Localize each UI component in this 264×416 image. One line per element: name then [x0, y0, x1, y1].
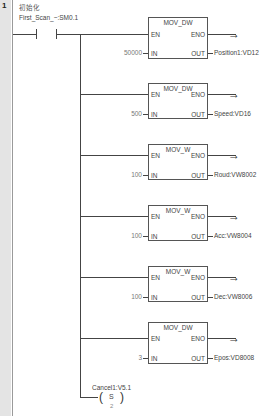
- in-wire: [143, 297, 148, 298]
- block-box[interactable]: MOV_DW EN ENO IN OUT: [148, 17, 208, 59]
- block-box[interactable]: MOV_W EN ENO IN OUT: [148, 205, 208, 241]
- branch-wire-3: [80, 155, 148, 156]
- branch-wire-5: [80, 277, 148, 278]
- block-box[interactable]: MOV_W EN ENO IN OUT: [148, 144, 208, 180]
- in-pin: IN: [151, 233, 158, 240]
- in-value[interactable]: 100: [102, 293, 142, 300]
- branch-wire-coil: [80, 397, 98, 398]
- out-wire: [208, 175, 213, 176]
- en-pin: EN: [151, 31, 160, 38]
- block-title: MOV_DW: [149, 324, 207, 331]
- out-value[interactable]: Acc:VW8004: [214, 232, 252, 239]
- eno-pin: ENO: [191, 335, 205, 342]
- out-wire: [208, 53, 213, 54]
- out-pin: OUT: [191, 355, 205, 362]
- block-box[interactable]: MOV_DW EN ENO IN OUT: [148, 322, 208, 364]
- out-pin: OUT: [191, 172, 205, 179]
- coil-label[interactable]: Cancel1:V5.1: [92, 384, 131, 391]
- in-pin: IN: [151, 294, 158, 301]
- coil-left-paren: (: [99, 390, 103, 404]
- branch-wire-6: [80, 338, 148, 339]
- in-value[interactable]: 500: [102, 110, 142, 117]
- in-value[interactable]: 100: [102, 171, 142, 178]
- out-value[interactable]: Position1:VD12: [214, 49, 259, 56]
- in-wire: [143, 236, 148, 237]
- out-wire: [208, 358, 213, 359]
- eno-pin: ENO: [191, 31, 205, 38]
- in-wire: [143, 175, 148, 176]
- arrow-right-icon: →: [228, 149, 240, 161]
- en-pin: EN: [151, 152, 160, 159]
- out-pin: OUT: [191, 233, 205, 240]
- in-wire: [143, 53, 148, 54]
- arrow-right-icon: →: [228, 88, 240, 100]
- out-pin: OUT: [191, 50, 205, 57]
- in-pin: IN: [151, 111, 158, 118]
- in-value[interactable]: 3: [102, 354, 142, 361]
- eno-pin: ENO: [191, 152, 205, 159]
- eno-pin: ENO: [191, 274, 205, 281]
- rung-wire-left: [13, 34, 36, 35]
- eno-pin: ENO: [191, 91, 205, 98]
- branch-wire-4: [80, 216, 148, 217]
- out-pin: OUT: [191, 111, 205, 118]
- in-wire: [143, 358, 148, 359]
- in-value[interactable]: 100: [102, 232, 142, 239]
- eno-pin: ENO: [191, 213, 205, 220]
- in-value[interactable]: 50000: [102, 49, 142, 56]
- out-wire: [208, 114, 213, 115]
- out-value[interactable]: Roud:VW8002: [214, 171, 256, 178]
- block-box[interactable]: MOV_DW EN ENO IN OUT: [148, 83, 208, 119]
- en-pin: EN: [151, 213, 160, 220]
- contact-left-bar[interactable]: [36, 29, 37, 39]
- branch-wire-2: [80, 94, 148, 95]
- arrow-right-icon: →: [228, 332, 240, 344]
- arrow-right-icon: →: [228, 28, 240, 40]
- out-value[interactable]: Speed:VD16: [214, 110, 251, 117]
- out-wire: [208, 236, 213, 237]
- out-value[interactable]: Dec:VW8006: [214, 293, 252, 300]
- out-value[interactable]: Epos:VD8008: [214, 354, 254, 361]
- out-wire: [208, 297, 213, 298]
- rung-comment[interactable]: 初始化: [19, 2, 40, 12]
- out-pin: OUT: [191, 294, 205, 301]
- in-pin: IN: [151, 355, 158, 362]
- contact-label[interactable]: First_Scan_~:SM0.1: [19, 14, 78, 21]
- in-pin: IN: [151, 172, 158, 179]
- left-power-rail: [12, 0, 13, 416]
- coil-type: S: [109, 393, 114, 400]
- coil-count[interactable]: 2: [110, 403, 113, 409]
- rung-number: 1: [2, 1, 6, 10]
- rung-wire-right: [57, 34, 148, 35]
- en-pin: EN: [151, 91, 160, 98]
- block-box[interactable]: MOV_W EN ENO IN OUT: [148, 266, 208, 302]
- arrow-right-icon: →: [228, 271, 240, 283]
- arrow-right-icon: →: [228, 210, 240, 222]
- in-wire: [143, 114, 148, 115]
- en-pin: EN: [151, 274, 160, 281]
- block-title: MOV_DW: [149, 19, 207, 26]
- en-pin: EN: [151, 335, 160, 342]
- left-power-rail-background: [0, 0, 11, 416]
- in-pin: IN: [151, 50, 158, 57]
- coil-right-paren: ): [120, 390, 124, 404]
